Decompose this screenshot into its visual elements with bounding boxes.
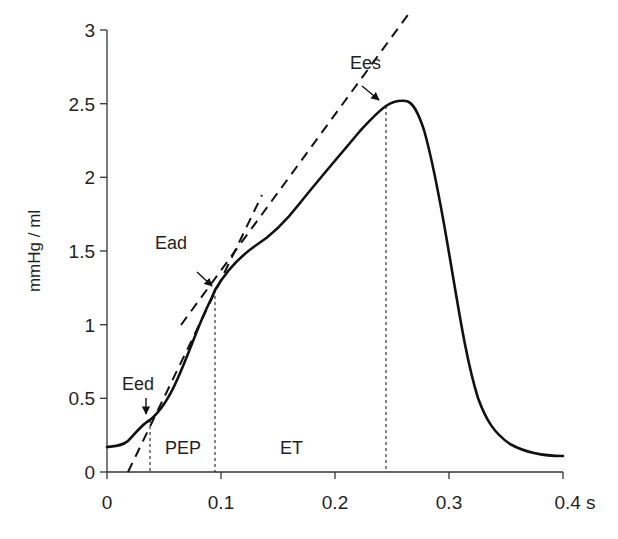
y-tick-labels: 0 0.5 1 1.5 2 2.5 3: [69, 20, 95, 483]
elastance-chart: 0 0.5 1 1.5 2 2.5 3 0 0.1 0.2 0.3 0.4 s …: [0, 0, 618, 539]
et-label: ET: [280, 438, 303, 458]
x-tick-labels: 0 0.1 0.2 0.3 0.4 s: [102, 492, 596, 513]
y-axis: [100, 30, 107, 472]
x-tick-label: 0: [102, 492, 113, 513]
ead-arrow-icon: [197, 272, 212, 286]
elastance-curve: [107, 101, 563, 456]
x-tick-label: 0.2: [322, 492, 348, 513]
ees-arrow-icon: [362, 86, 379, 100]
y-tick-label: 0.5: [69, 388, 95, 409]
y-tick-label: 1.5: [69, 241, 95, 262]
y-tick-label: 3: [84, 20, 95, 41]
x-tick-label: 0.1: [208, 492, 234, 513]
ead-label: Ead: [155, 233, 187, 253]
y-axis-title: mmHg / ml: [25, 210, 44, 292]
ees-label: Ees: [350, 53, 381, 73]
x-tick-label: 0.4 s: [554, 492, 595, 513]
eed-label: Eed: [122, 374, 154, 394]
y-tick-label: 1: [84, 315, 95, 336]
y-tick-label: 2.5: [69, 94, 95, 115]
y-tick-label: 2: [84, 167, 95, 188]
x-axis: [107, 472, 563, 479]
y-tick-label: 0: [84, 462, 95, 483]
x-tick-label: 0.3: [436, 492, 462, 513]
annotation-labels: Eed Ead Ees PEP ET: [122, 53, 381, 458]
pep-label: PEP: [165, 438, 201, 458]
phase-markers: [150, 106, 386, 472]
